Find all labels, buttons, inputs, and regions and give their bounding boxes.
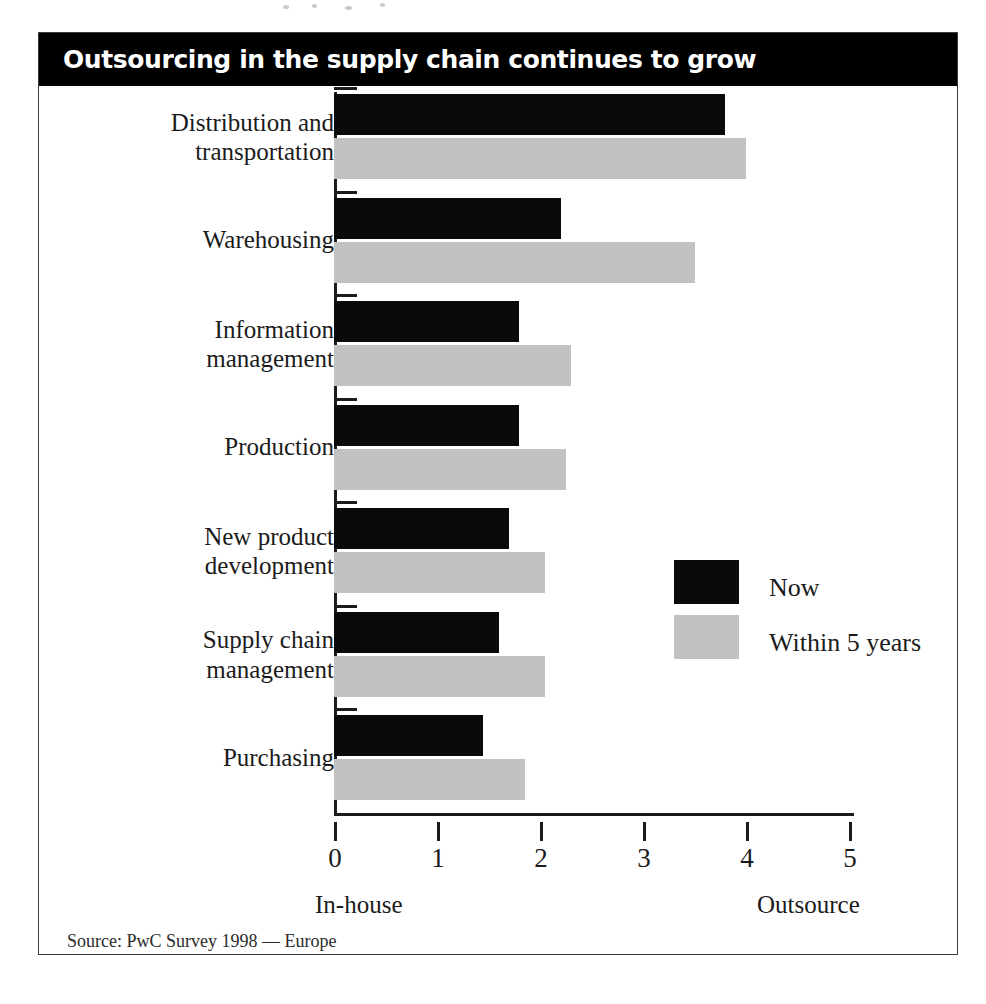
category-tick [334, 294, 357, 297]
legend-swatch-within-5-years [674, 615, 739, 659]
bar-now [334, 508, 509, 549]
chart-title-bar: Outsourcing in the supply chain continue… [39, 33, 957, 86]
source-note: Source: PwC Survey 1998 — Europe [67, 931, 336, 952]
axis-end-label-right: Outsource [757, 891, 860, 919]
axis-end-label-left: In-house [315, 891, 402, 919]
value-axis-tick-label: 1 [418, 843, 458, 874]
scan-speckle [380, 3, 385, 7]
category-tick [334, 398, 357, 401]
category-label: Purchasing [59, 743, 334, 773]
legend-label-now: Now [769, 573, 820, 603]
bar-within-5-years [334, 552, 545, 593]
scan-speckle [283, 5, 289, 9]
value-axis-tick [334, 822, 337, 841]
bar-within-5-years [334, 242, 695, 283]
bar-within-5-years [334, 138, 746, 179]
value-axis-tick-label: 2 [521, 843, 561, 874]
category-label: Informationmanagement [59, 314, 334, 373]
bar-now [334, 301, 519, 342]
legend-swatch-now [674, 560, 739, 604]
legend-item-within-5-years: Within 5 years [674, 615, 921, 659]
category-tick [334, 191, 357, 194]
value-axis-tick-label: 0 [315, 843, 355, 874]
category-tick [334, 87, 357, 90]
value-axis-tick-label: 5 [830, 843, 870, 874]
category-label: Supply chainmanagement [59, 625, 334, 684]
value-axis-tick-label: 3 [624, 843, 664, 874]
category-tick [334, 708, 357, 711]
bar-now [334, 94, 725, 135]
category-tick [334, 501, 357, 504]
bar-within-5-years [334, 759, 525, 800]
category-axis-labels: Distribution andtransportationWarehousin… [59, 86, 334, 813]
bar-now [334, 612, 499, 653]
value-axis-tick [746, 822, 749, 841]
plot-area: Distribution andtransportationWarehousin… [39, 86, 957, 954]
value-axis-tick [849, 822, 852, 841]
category-tick [334, 605, 357, 608]
value-axis-tick-label: 4 [727, 843, 767, 874]
category-label: Production [59, 432, 334, 462]
value-axis-tick [437, 822, 440, 841]
category-label: New productdevelopment [59, 521, 334, 580]
bar-within-5-years [334, 345, 571, 386]
bar-now [334, 198, 561, 239]
bar-now [334, 715, 483, 756]
scan-speckle [345, 6, 352, 10]
bar-within-5-years [334, 449, 566, 490]
bar-within-5-years [334, 656, 545, 697]
scan-speckle [312, 4, 317, 8]
page-title: Outsourcing in the supply chain continue… [39, 45, 756, 74]
value-axis-tick [540, 822, 543, 841]
value-axis-line [334, 813, 854, 816]
legend-item-now: Now [674, 560, 820, 604]
category-label: Distribution andtransportation [59, 107, 334, 166]
category-label: Warehousing [59, 225, 334, 255]
value-axis-tick [643, 822, 646, 841]
bar-now [334, 405, 519, 446]
bars-layer [334, 86, 894, 813]
legend-label-within-5-years: Within 5 years [769, 628, 921, 658]
chart-figure-frame: Outsourcing in the supply chain continue… [38, 32, 958, 955]
